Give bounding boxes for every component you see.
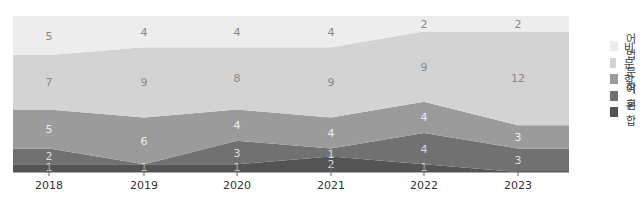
- x-tick-label: 2020: [223, 179, 251, 192]
- value-label: 12: [511, 72, 525, 85]
- legend-label: 혼합: [626, 96, 643, 128]
- x-tick-label: 2021: [317, 179, 345, 192]
- value-label: 2: [421, 18, 428, 31]
- value-label: 9: [141, 76, 148, 89]
- x-tick-label: 2023: [504, 179, 532, 192]
- value-label: 5: [46, 123, 53, 136]
- value-label: 1: [328, 148, 335, 161]
- legend-swatch-icon: [610, 41, 618, 51]
- value-label: 9: [421, 61, 428, 74]
- legend-swatch-icon: [610, 107, 618, 117]
- value-label: 3: [515, 131, 522, 144]
- value-label: 3: [234, 147, 241, 160]
- stacked-area-chart: 11121231435644437989912544422 2018201920…: [0, 0, 600, 204]
- value-label: 7: [46, 76, 53, 89]
- value-label: 4: [421, 143, 428, 156]
- value-label: 4: [141, 26, 148, 39]
- value-label: 9: [328, 76, 335, 89]
- value-label: 8: [234, 72, 241, 85]
- value-label: 4: [234, 119, 241, 132]
- x-tick-label: 2022: [410, 179, 438, 192]
- value-label: 5: [46, 30, 53, 43]
- legend-swatch-icon: [610, 74, 618, 84]
- legend: 어법 비문학 문학 어휘 혼합: [610, 38, 643, 121]
- value-label: 4: [234, 26, 241, 39]
- legend-swatch-icon: [610, 91, 618, 101]
- area-layers: [13, 16, 569, 172]
- x-tick-label: 2019: [130, 179, 158, 192]
- value-label: 6: [141, 135, 148, 148]
- legend-item-mixed: 혼합: [610, 104, 643, 120]
- value-label: 4: [421, 111, 428, 124]
- value-label: 4: [328, 127, 335, 140]
- x-tick-label: 2018: [35, 179, 63, 192]
- legend-swatch-icon: [610, 58, 616, 68]
- value-label: 4: [328, 26, 335, 39]
- value-label: 2: [515, 18, 522, 31]
- value-label: 2: [46, 150, 53, 163]
